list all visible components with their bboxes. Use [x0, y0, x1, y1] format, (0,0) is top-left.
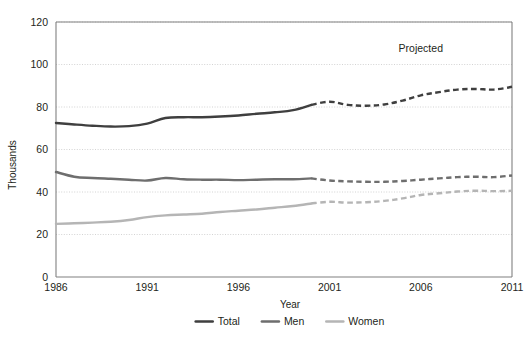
annotation-projected: Projected — [399, 42, 444, 54]
x-tick-label-2006: 2006 — [409, 281, 433, 293]
y-tick-label-80: 80 — [36, 101, 48, 113]
line-chart: 020406080100120 198619911996200120062011… — [0, 0, 532, 342]
chart-legend: TotalMenWomen — [196, 315, 385, 327]
x-tick-label-1996: 1996 — [227, 281, 251, 293]
legend-label-total: Total — [218, 315, 240, 327]
chart-annotations: Projected — [399, 42, 444, 54]
y-tick-label-100: 100 — [30, 58, 48, 70]
y-tick-label-20: 20 — [36, 228, 48, 240]
legend-label-women: Women — [348, 315, 384, 327]
x-axis-title: Year — [280, 299, 301, 310]
y-axis-title: Thousands — [7, 140, 18, 189]
y-tick-label-40: 40 — [36, 186, 48, 198]
x-tick-label-1986: 1986 — [44, 281, 68, 293]
legend-label-men: Men — [284, 315, 305, 327]
chart-background — [0, 0, 532, 342]
x-tick-label-1991: 1991 — [136, 281, 160, 293]
y-tick-label-120: 120 — [30, 16, 48, 28]
x-tick-label-2011: 2011 — [501, 281, 524, 293]
x-tick-label-2001: 2001 — [318, 281, 342, 293]
chart-container: 020406080100120 198619911996200120062011… — [0, 0, 532, 342]
y-tick-label-60: 60 — [36, 143, 48, 155]
